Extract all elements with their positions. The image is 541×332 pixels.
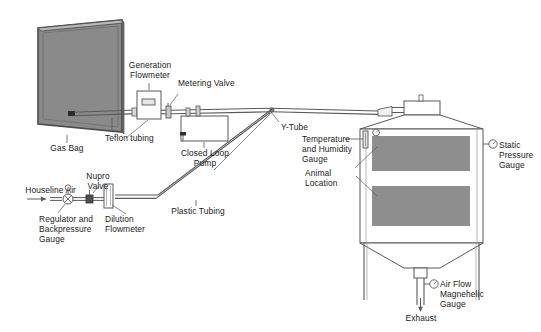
nupro-valve-label-line2: Valve [76, 181, 120, 191]
inlet-manifold [404, 101, 440, 115]
generation-flowmeter-label-line2: Flowmeter [120, 70, 180, 80]
static-pressure-label-line3: Gauge [499, 160, 525, 170]
airflow-gauge-label-line1: Air Flow [440, 279, 471, 289]
inlet-stub [419, 95, 423, 101]
nupro-valve-body [86, 195, 93, 203]
exhaust-fitting [414, 268, 427, 278]
chamber-bottom-cone [360, 243, 483, 268]
houseline-air-supply [27, 197, 62, 202]
airflow-gauge-label-line3: Gauge [440, 299, 466, 309]
metering-valve-label: Metering Valve [178, 78, 235, 88]
dilution-flowmeter-label-line2: Flowmeter [105, 224, 145, 234]
pump-outlet-port [196, 106, 200, 116]
animal-location-label-line1: Animal [305, 168, 331, 178]
temp-humidity-label-line3: Gauge [302, 154, 328, 164]
regulator-label-line2: Backpressure [39, 224, 91, 234]
arrow-down-head [418, 307, 423, 312]
closed-loop-pump-body [181, 116, 228, 141]
regulator-leader [58, 204, 65, 213]
temp-humidity-label-line1: Temperature [302, 134, 350, 144]
generation-flowmeter-scale [142, 99, 155, 105]
plastic-tubing-label: Plastic Tubing [158, 206, 238, 216]
regulator-label-line1: Regulator and [39, 214, 93, 224]
closed-loop-pump-label-line1: Closed Loop [172, 148, 238, 158]
static-pressure-label-line1: Static [499, 140, 521, 150]
animal-location-label-line2: Location [305, 178, 337, 188]
regulator-label-line3: Gauge [39, 234, 65, 244]
animal-shelf-icon [372, 136, 470, 171]
inlet-reducer [378, 107, 392, 117]
flowmeter-icon [137, 83, 161, 119]
animal-shelf-icon [372, 186, 470, 226]
generation-flowmeter-label-line1: Generation [120, 60, 180, 70]
metering-valve-leader [170, 94, 178, 105]
houseline-air-label: Houseline Air [0, 185, 76, 195]
teflon-inlet-fitting [132, 108, 137, 116]
arrow-right-head [41, 197, 46, 202]
y-tube-label: Y-Tube [281, 122, 308, 132]
temp-humidity-label-line2: and Humidity [302, 144, 352, 154]
y-tube-leader [271, 112, 279, 122]
exposure-chamber-icon [345, 115, 497, 312]
teflon-tubing-label: Teflon tubing [105, 133, 154, 143]
valve-icon [161, 94, 178, 118]
gas-bag-label: Gas Bag [36, 143, 98, 153]
pump-foot [180, 132, 186, 136]
airflow-gauge-label-line2: Magnehelic [440, 289, 484, 299]
gas-bag-icon [38, 20, 124, 143]
exposure-system-diagram: Gas Bag Teflon tubing Generation Flowmet… [0, 0, 541, 332]
exhaust-label: Exhaust [400, 313, 442, 323]
closed-loop-pump-label-line2: Pump [172, 158, 238, 168]
gas-bag-outlet [68, 111, 75, 116]
static-pressure-label-line2: Pressure [499, 150, 533, 160]
chamber-top-cone [360, 115, 483, 129]
pump-inlet-port [186, 108, 190, 116]
nupro-valve-label-line1: Nupro [76, 171, 120, 181]
chamber-inlet [272, 95, 440, 116]
dilution-flowmeter-label-line1: Dilution [105, 214, 134, 224]
dilution-flowmeter-leader [112, 205, 126, 214]
metering-valve-body [166, 106, 171, 118]
